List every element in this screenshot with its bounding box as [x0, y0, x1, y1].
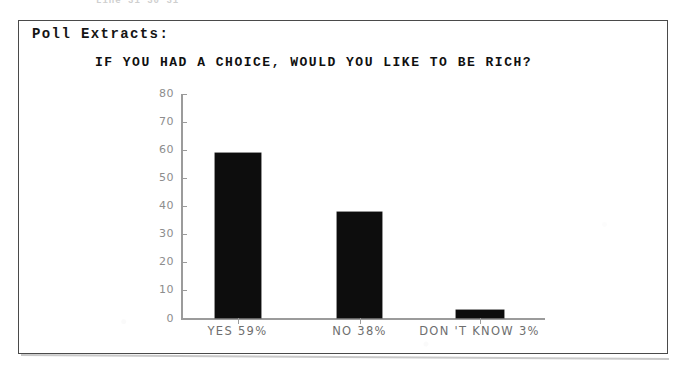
- poll-extract-box: [18, 20, 668, 354]
- chart-title: IF YOU HAD A CHOICE, WOULD YOU LIKE TO B…: [0, 55, 687, 70]
- poll-extracts-label: Poll Extracts:: [32, 26, 169, 42]
- page-top-cutoff-text: Line 31 30 31: [96, 0, 246, 6]
